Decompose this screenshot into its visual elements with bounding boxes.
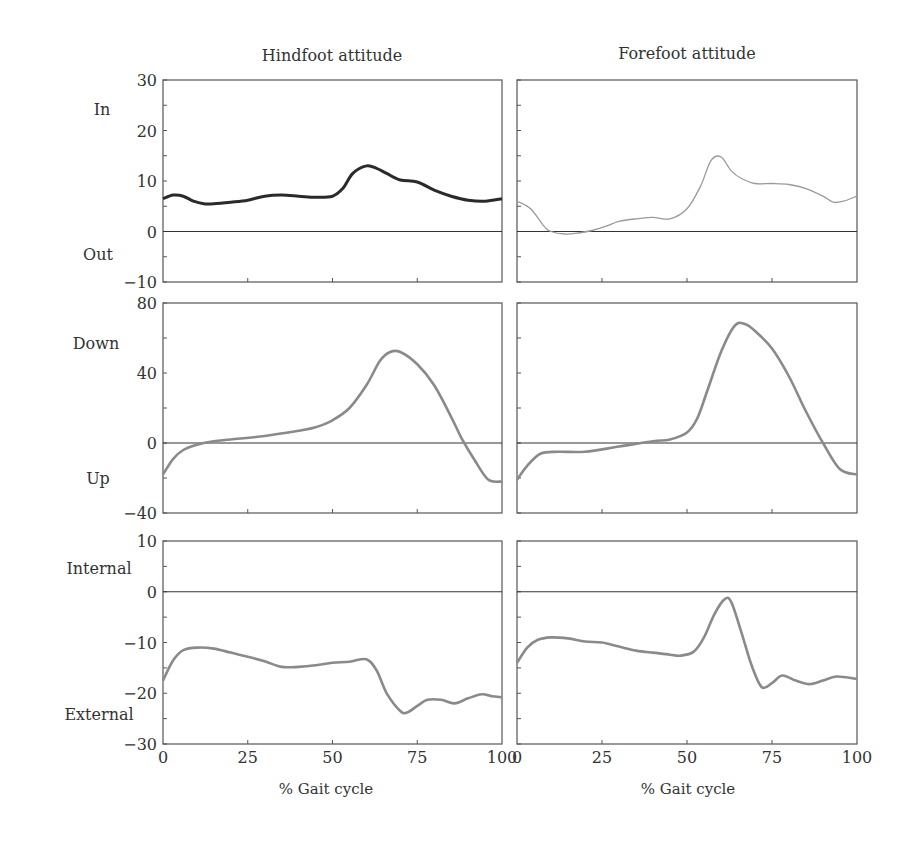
x-tick-label: 50 — [322, 748, 342, 767]
y-tick-label: −40 — [123, 504, 157, 523]
direction-label-internal: Internal — [66, 559, 131, 578]
y-tick-label: −20 — [123, 684, 157, 703]
panel-row2-col1: −4004080 — [123, 294, 502, 523]
direction-label-down: Down — [73, 334, 119, 353]
x-axis-label-left: % Gait cycle — [279, 780, 374, 798]
x-tick-label: 75 — [762, 748, 782, 767]
y-tick-label: 30 — [137, 71, 157, 90]
column-title-hindfoot: Hindfoot attitude — [262, 46, 402, 65]
y-tick-label: 0 — [147, 223, 157, 242]
data-curve — [517, 598, 857, 688]
plot-frame — [517, 303, 857, 513]
data-curve — [163, 166, 502, 204]
x-tick-label: 50 — [677, 748, 697, 767]
panel-row2-col2 — [517, 303, 857, 513]
plot-frame — [163, 80, 502, 282]
data-curve — [163, 648, 502, 714]
x-tick-label: 100 — [842, 748, 873, 767]
plot-frame — [517, 80, 857, 282]
data-curve — [517, 156, 857, 234]
plot-frame — [163, 303, 502, 513]
y-tick-label: 0 — [147, 434, 157, 453]
panels: −100102030−4004080−30−20−100100255075100… — [123, 71, 872, 767]
y-tick-label: 10 — [137, 532, 157, 551]
plot-frame — [517, 541, 857, 744]
y-tick-label: 0 — [147, 583, 157, 602]
x-axis-label-right: % Gait cycle — [641, 780, 736, 798]
gait-figure: Hindfoot attitude Forefoot attitude In O… — [0, 0, 911, 841]
panel-row3-col2: 0255075100 — [512, 541, 872, 767]
data-curve — [163, 351, 502, 482]
y-tick-label: 10 — [137, 172, 157, 191]
x-tick-label: 25 — [592, 748, 612, 767]
plot-frame — [163, 541, 502, 744]
x-tick-label: 0 — [158, 748, 168, 767]
y-tick-label: −30 — [123, 735, 157, 754]
y-tick-label: 40 — [137, 364, 157, 383]
x-tick-label: 0 — [512, 748, 522, 767]
direction-label-up: Up — [86, 469, 110, 488]
data-curve — [517, 323, 857, 480]
direction-labels: In Out Down Up Internal External — [64, 100, 133, 724]
x-tick-label: 25 — [238, 748, 258, 767]
panel-row3-col1: −30−20−100100255075100 — [123, 532, 517, 767]
x-tick-label: 75 — [407, 748, 427, 767]
y-tick-label: 80 — [137, 294, 157, 313]
direction-label-out: Out — [83, 245, 113, 264]
panel-row1-col2 — [517, 80, 857, 282]
column-title-forefoot: Forefoot attitude — [618, 44, 756, 63]
direction-label-in: In — [94, 100, 111, 119]
panel-row1-col1: −100102030 — [123, 71, 502, 292]
y-tick-label: −10 — [123, 634, 157, 653]
direction-label-external: External — [64, 705, 133, 724]
y-tick-label: 20 — [137, 122, 157, 141]
y-tick-label: −10 — [123, 273, 157, 292]
